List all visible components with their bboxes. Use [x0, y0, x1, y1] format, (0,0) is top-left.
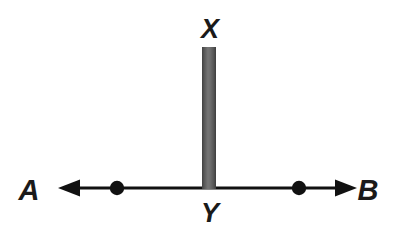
label-a: A [18, 174, 40, 206]
figure-canvas: X Y A B [0, 0, 407, 239]
label-b: B [358, 174, 379, 206]
point-right-dot [292, 181, 306, 195]
geometry-figure: X Y A B [0, 0, 407, 239]
label-y: Y [201, 198, 222, 228]
segment-xy-bar [202, 47, 216, 189]
point-left-dot [110, 181, 124, 195]
label-x: X [199, 14, 221, 44]
